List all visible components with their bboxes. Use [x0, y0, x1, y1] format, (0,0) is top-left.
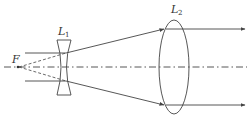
lens2-subscript: 2: [178, 9, 182, 17]
lens1-subscript: 1: [65, 31, 69, 39]
optical-diagram: F L 1 L 2: [0, 0, 251, 120]
concave-lens-l1: [57, 40, 71, 95]
virtual-ray-top: [19, 53, 66, 67]
virtual-ray-bottom: [19, 67, 66, 81]
diverging-ray-bottom: [66, 81, 164, 105]
focus-label: F: [11, 53, 20, 66]
focus-point: [17, 66, 20, 69]
diverging-ray-top: [66, 29, 164, 53]
